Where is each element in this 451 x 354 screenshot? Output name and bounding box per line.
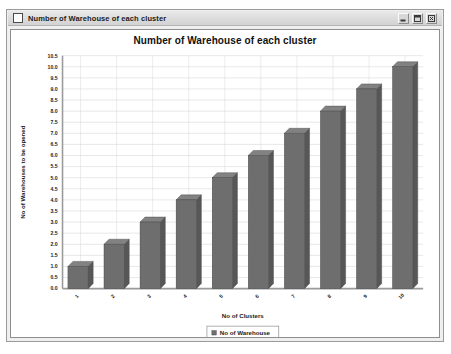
window-controls (398, 13, 437, 24)
y-tick-label: 9.5 (50, 75, 57, 81)
bar-front-face (212, 178, 232, 289)
x-tick-label: 2 (110, 293, 116, 299)
window-titlebar[interactable]: Number of Warehouse of each cluster (8, 11, 442, 26)
y-tick-label: 5.5 (50, 163, 57, 169)
bar (284, 128, 309, 288)
y-tick-label: 3.0 (50, 219, 57, 225)
y-tick-label: 1.0 (50, 263, 57, 269)
y-tick-label: 4.5 (50, 186, 57, 192)
y-tick-label: 5.0 (50, 175, 57, 181)
y-tick-label: 3.5 (50, 208, 57, 214)
bar-chart: 0.00.51.01.52.02.53.03.54.04.55.05.56.06… (11, 30, 439, 337)
y-tick-label: 4.0 (50, 197, 57, 203)
document-icon (13, 13, 23, 23)
bar (392, 62, 417, 289)
y-tick-label: 0.5 (50, 274, 57, 280)
minimize-button[interactable] (398, 13, 409, 24)
bar-front-face (68, 266, 88, 288)
chart-legend: No of Warehouse (207, 326, 279, 337)
window-title: Number of Warehouse of each cluster (28, 14, 166, 23)
bar-front-face (140, 222, 160, 289)
bar-front-face (392, 67, 412, 289)
x-tick-label: 1 (73, 293, 79, 299)
bar (248, 150, 273, 288)
maximize-button[interactable] (412, 13, 423, 24)
y-tick-label: 0.0 (50, 286, 57, 292)
x-tick-label: 4 (182, 293, 188, 299)
bar (212, 173, 237, 289)
bar (140, 217, 165, 289)
bar-front-face (176, 200, 196, 289)
x-tick-label: 3 (146, 293, 152, 299)
bar-side-face (377, 84, 382, 289)
bar-side-face (268, 150, 273, 288)
bar (104, 239, 129, 288)
bar-side-face (160, 217, 165, 289)
bar (356, 84, 381, 289)
y-tick-label: 8.0 (50, 108, 57, 114)
bar-front-face (356, 89, 376, 289)
legend-label: No of Warehouse (220, 329, 271, 336)
y-tick-label: 10.0 (48, 64, 58, 70)
bar-front-face (248, 156, 268, 289)
x-tick-label: 6 (254, 293, 260, 299)
bar-side-face (341, 106, 346, 289)
y-tick-label: 6.0 (50, 152, 57, 158)
y-tick-label: 1.5 (50, 252, 57, 258)
y-tick-label: 7.5 (50, 119, 57, 125)
bar (68, 261, 93, 288)
y-tick-label: 8.5 (50, 97, 57, 103)
bar-front-face (284, 133, 304, 288)
x-tick-label: 9 (362, 293, 368, 299)
bar-front-face (104, 244, 124, 288)
y-tick-label: 6.5 (50, 141, 57, 147)
y-tick-label: 10.5 (48, 53, 58, 59)
y-tick-label: 2.5 (50, 230, 57, 236)
bar (176, 195, 201, 289)
bar-side-face (124, 239, 129, 288)
y-tick-label: 2.0 (50, 241, 57, 247)
legend-swatch (212, 331, 216, 335)
x-tick-label: 5 (218, 293, 224, 299)
bar-side-face (232, 173, 237, 289)
x-axis-title: No of Clusters (222, 312, 265, 319)
bar-side-face (196, 195, 201, 289)
y-tick-label: 7.0 (50, 130, 57, 136)
close-button[interactable] (426, 13, 437, 24)
chart-window: Number of Warehouse of each cluster (6, 9, 444, 342)
x-tick-label: 8 (326, 293, 332, 299)
bar-side-face (413, 62, 418, 289)
y-axis-title: No of Warehouses to be opened (19, 125, 26, 218)
chart-panel: Number of Warehouse of each cluster 0.00… (10, 29, 440, 338)
x-tick-label: 7 (290, 293, 296, 299)
x-tick-label: 10 (397, 292, 405, 300)
bar-side-face (305, 128, 310, 288)
bar (320, 106, 345, 289)
y-tick-label: 9.0 (50, 86, 57, 92)
bar-front-face (320, 111, 340, 288)
